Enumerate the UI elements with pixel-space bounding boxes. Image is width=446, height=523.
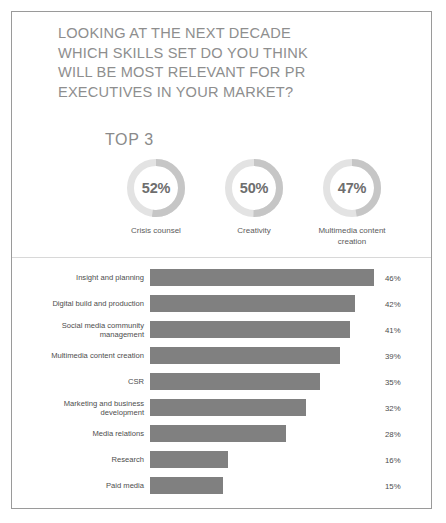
- bar-category-label: Research: [22, 455, 144, 464]
- bar-value-label: 41%: [385, 325, 401, 334]
- bar-category-label: CSR: [22, 377, 144, 386]
- donut-crisis-counsel: 52% Crisis counsel: [108, 157, 204, 237]
- bar-row: CSR35%: [0, 373, 446, 390]
- infographic-root: LOOKING AT THE NEXT DECADE WHICH SKILLS …: [0, 0, 446, 523]
- bar-row: Research16%: [0, 451, 446, 468]
- bar-value-label: 15%: [385, 481, 401, 490]
- bar-track: [150, 373, 320, 390]
- bar-value-label: 28%: [385, 429, 401, 438]
- bar-category-label: Multimedia content creation: [22, 351, 144, 360]
- bar-value-label: 39%: [385, 351, 401, 360]
- bar-category-label: Marketing and business development: [22, 398, 144, 417]
- donut-caption-2: Multimedia content creation: [304, 226, 400, 247]
- section-divider: [12, 257, 431, 258]
- bar-fill: [150, 321, 350, 338]
- bar-track: [150, 347, 340, 364]
- bar-chart: Insight and planning46%Digital build and…: [0, 269, 446, 503]
- donut-ring-0: 52%: [125, 157, 187, 219]
- bar-row: Multimedia content creation39%: [0, 347, 446, 364]
- bar-track: [150, 477, 223, 494]
- donut-multimedia-content-creation: 47% Multimedia content creation: [304, 157, 400, 247]
- bar-row: Social media community management41%: [0, 321, 446, 338]
- bar-fill: [150, 399, 306, 416]
- top3-heading: TOP 3: [105, 131, 154, 149]
- bar-category-label: Digital build and production: [22, 299, 144, 308]
- title-line-3: WILL BE MOST RELEVANT FOR PR: [58, 63, 388, 83]
- bar-track: [150, 269, 374, 286]
- bar-fill: [150, 451, 228, 468]
- donut-value-2: 47%: [321, 157, 383, 219]
- donut-caption-0: Crisis counsel: [108, 226, 204, 237]
- donut-creativity: 50% Creativity: [206, 157, 302, 237]
- page-title: LOOKING AT THE NEXT DECADE WHICH SKILLS …: [58, 24, 388, 102]
- bar-category-label: Insight and planning: [22, 273, 144, 282]
- bar-value-label: 35%: [385, 377, 401, 386]
- donut-chart-group: 52% Crisis counsel 50% Creativity 47%: [104, 157, 404, 249]
- title-line-1: LOOKING AT THE NEXT DECADE: [58, 24, 388, 44]
- bar-category-label: Paid media: [22, 481, 144, 490]
- bar-track: [150, 451, 228, 468]
- bar-value-label: 42%: [385, 299, 401, 308]
- bar-fill: [150, 347, 340, 364]
- donut-ring-1: 50%: [223, 157, 285, 219]
- bar-fill: [150, 295, 355, 312]
- bar-track: [150, 399, 306, 416]
- donut-value-0: 52%: [125, 157, 187, 219]
- donut-caption-1: Creativity: [206, 226, 302, 237]
- bar-row: Marketing and business development32%: [0, 399, 446, 416]
- title-line-2: WHICH SKILLS SET DO YOU THINK: [58, 44, 388, 64]
- bar-track: [150, 425, 286, 442]
- bar-category-label: Social media community management: [22, 320, 144, 339]
- title-line-4: EXECUTIVES IN YOUR MARKET?: [58, 83, 388, 103]
- bar-row: Media relations28%: [0, 425, 446, 442]
- bar-row: Digital build and production42%: [0, 295, 446, 312]
- bar-value-label: 16%: [385, 455, 401, 464]
- bar-fill: [150, 269, 374, 286]
- bar-row: Insight and planning46%: [0, 269, 446, 286]
- bar-fill: [150, 425, 286, 442]
- donut-value-1: 50%: [223, 157, 285, 219]
- donut-ring-2: 47%: [321, 157, 383, 219]
- bar-category-label: Media relations: [22, 429, 144, 438]
- bar-fill: [150, 373, 320, 390]
- bar-row: Paid media15%: [0, 477, 446, 494]
- bar-track: [150, 295, 355, 312]
- bar-value-label: 32%: [385, 403, 401, 412]
- bar-track: [150, 321, 350, 338]
- bar-value-label: 46%: [385, 273, 401, 282]
- bar-fill: [150, 477, 223, 494]
